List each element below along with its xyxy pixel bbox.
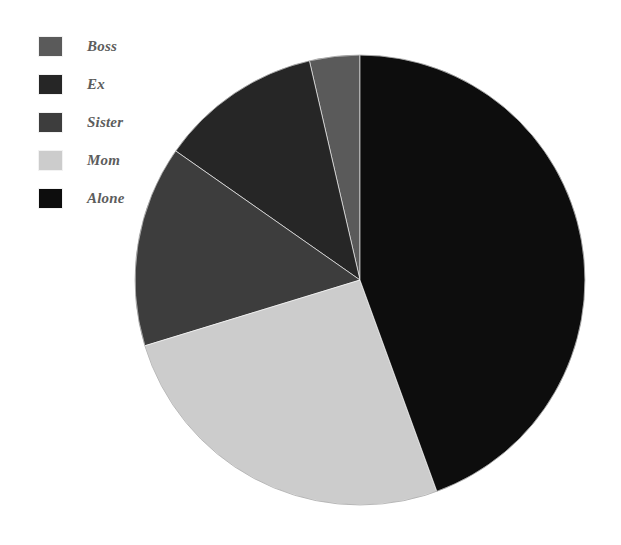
legend-label-boss: Boss <box>87 38 117 55</box>
legend-swatch-ex <box>38 74 63 95</box>
legend-swatch-sister <box>38 112 63 133</box>
legend-label-sister: Sister <box>87 114 123 131</box>
legend-item[interactable]: Alone <box>38 186 188 210</box>
legend-label-alone: Alone <box>87 190 125 207</box>
pie-chart-figure: Boss Ex Sister Mom Alone <box>0 0 621 545</box>
legend-item[interactable]: Sister <box>38 110 188 134</box>
pie-slice-group <box>135 55 585 505</box>
legend-swatch-alone <box>38 188 63 209</box>
legend-label-mom: Mom <box>87 152 120 169</box>
legend-item[interactable]: Boss <box>38 34 188 58</box>
legend-item[interactable]: Mom <box>38 148 188 172</box>
chart-legend: Boss Ex Sister Mom Alone <box>38 34 188 224</box>
legend-label-ex: Ex <box>87 76 105 93</box>
legend-item[interactable]: Ex <box>38 72 188 96</box>
legend-swatch-boss <box>38 36 63 57</box>
legend-swatch-mom <box>38 150 63 171</box>
